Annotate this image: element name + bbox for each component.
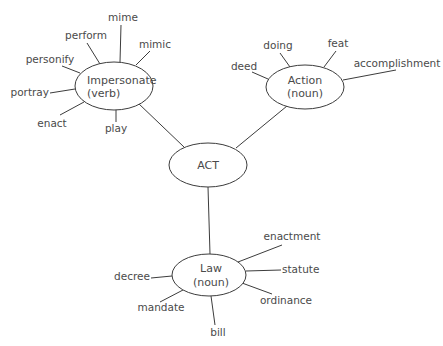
- node-action-label-line2: (noun): [287, 87, 323, 100]
- spoke-bill: [211, 296, 215, 325]
- spoke-statute: [246, 270, 281, 271]
- spoke-doing: [280, 53, 290, 67]
- spoke-decree: [151, 276, 172, 278]
- word-deed: deed: [231, 60, 257, 72]
- spoke-personify: [62, 66, 80, 73]
- word-feat: feat: [328, 37, 349, 49]
- word-enactment: enactment: [264, 230, 321, 242]
- node-law-label-line1: Law: [200, 262, 222, 275]
- spoke-enact: [60, 102, 84, 115]
- spoke-mimic: [136, 51, 150, 65]
- word-perform: perform: [65, 29, 107, 41]
- node-impersonate: Impersonate (verb): [75, 62, 157, 110]
- spoke-portray: [50, 89, 75, 93]
- word-decree: decree: [114, 270, 150, 282]
- node-act-label: ACT: [197, 159, 219, 172]
- word-bill: bill: [210, 326, 225, 338]
- word-enact: enact: [37, 117, 66, 129]
- word-portray: portray: [11, 86, 50, 98]
- spoke-accomplishment: [343, 70, 396, 80]
- node-action: Action (noun): [266, 65, 344, 109]
- edge-act-impersonate: [138, 103, 184, 147]
- word-ordinance: ordinance: [260, 294, 312, 306]
- word-doing: doing: [263, 39, 292, 51]
- edge-act-law: [208, 187, 210, 254]
- spoke-ordinance: [242, 283, 272, 294]
- word-mime: mime: [108, 11, 138, 23]
- spoke-feat: [324, 51, 336, 67]
- word-play: play: [105, 122, 127, 134]
- word-personify: personify: [26, 53, 75, 65]
- node-law-shape: [172, 254, 246, 296]
- node-act: ACT: [169, 143, 247, 187]
- spoke-mime: [120, 25, 121, 62]
- word-statute: statute: [282, 263, 319, 275]
- node-impersonate-label-line1: Impersonate: [87, 74, 157, 87]
- edge-act-action: [236, 106, 287, 148]
- spoke-enactment: [238, 245, 282, 262]
- node-impersonate-label-line2: (verb): [87, 87, 120, 100]
- word-mimic: mimic: [139, 38, 171, 50]
- word-accomplishment: accomplishment: [354, 57, 441, 69]
- word-web-diagram: Impersonate (verb) Action (noun) ACT Law…: [0, 0, 443, 346]
- node-action-label-line1: Action: [288, 74, 322, 87]
- word-mandate: mandate: [138, 301, 185, 313]
- spoke-deed: [252, 72, 268, 79]
- spoke-perform: [87, 43, 100, 64]
- node-law-label-line2: (noun): [193, 276, 229, 289]
- node-law: Law (noun): [172, 254, 246, 296]
